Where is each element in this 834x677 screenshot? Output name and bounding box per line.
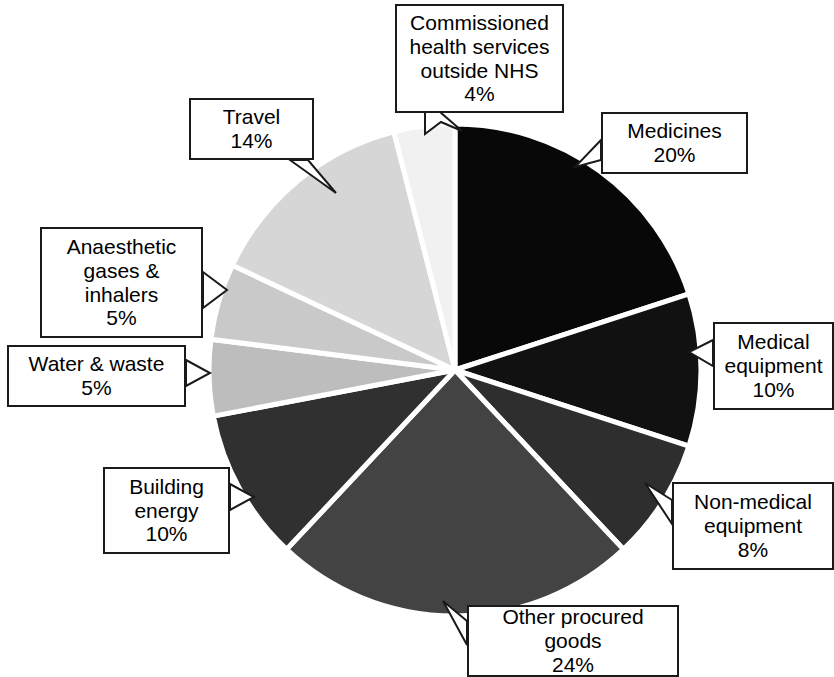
callout-water-and-waste-percent: 5%	[81, 376, 111, 400]
callout-anaesthetic-gases-percent: 5%	[106, 306, 136, 330]
callout-travel-label: Travel	[223, 105, 281, 129]
callout-medical-equipment-percent: 10%	[752, 378, 794, 402]
callout-non-medical-equipment: Non-medical equipment 8%	[672, 482, 834, 570]
callout-anaesthetic-gases-label: Anaesthetic gases & inhalers	[67, 235, 177, 307]
callout-anaesthetic-gases-inhalers: Anaesthetic gases & inhalers 5%	[40, 227, 203, 338]
callout-water-and-waste: Water & waste 5%	[7, 345, 186, 407]
callout-building-energy: Building energy 10%	[103, 467, 230, 554]
callout-commissioned-label: Commissioned health services outside NHS	[409, 11, 549, 83]
callout-other-procured-goods-percent: 24%	[552, 653, 594, 677]
callout-non-medical-equipment-label: Non-medical equipment	[694, 490, 812, 538]
callout-commissioned-health-services: Commissioned health services outside NHS…	[395, 4, 564, 113]
pie-chart-figure: Commissioned health services outside NHS…	[0, 0, 834, 677]
callout-medicines-percent: 20%	[653, 143, 695, 167]
callout-other-procured-goods-label: Other procured goods	[502, 605, 643, 653]
callout-building-energy-label: Building energy	[129, 475, 204, 523]
pie-slices-group	[209, 124, 701, 616]
callout-water-and-waste-label: Water & waste	[29, 352, 165, 376]
callout-travel-percent: 14%	[230, 129, 272, 153]
callout-medicines: Medicines 20%	[601, 112, 748, 174]
callout-medical-equipment: Medical equipment 10%	[713, 322, 834, 410]
callout-commissioned-percent: 4%	[464, 82, 494, 106]
callout-building-energy-percent: 10%	[145, 522, 187, 546]
callout-medical-equipment-label: Medical equipment	[724, 330, 822, 378]
callout-medicines-label: Medicines	[627, 119, 722, 143]
callout-other-procured-goods: Other procured goods 24%	[467, 605, 679, 677]
callout-non-medical-equipment-percent: 8%	[738, 538, 768, 562]
callout-travel: Travel 14%	[189, 98, 314, 160]
